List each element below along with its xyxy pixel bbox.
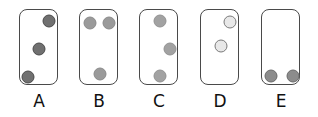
option-label: B bbox=[79, 91, 119, 111]
circle-dot bbox=[84, 17, 97, 30]
option-label: A bbox=[19, 91, 59, 111]
circle-dot bbox=[94, 68, 107, 81]
circle-dot bbox=[287, 70, 300, 83]
option-card bbox=[19, 9, 58, 85]
option-card bbox=[139, 9, 178, 85]
circle-dot bbox=[215, 40, 228, 53]
circle-dot bbox=[33, 43, 46, 56]
option-card bbox=[79, 9, 118, 85]
circle-dot bbox=[43, 15, 56, 28]
option-label: D bbox=[200, 91, 240, 111]
circle-dot bbox=[103, 17, 116, 30]
option-card bbox=[200, 9, 239, 85]
circle-dot bbox=[154, 70, 167, 83]
circle-dot bbox=[22, 71, 35, 84]
option-card bbox=[261, 9, 300, 85]
circle-dot bbox=[164, 43, 177, 56]
circle-dot bbox=[224, 16, 237, 29]
option-label: E bbox=[261, 91, 301, 111]
circle-dot bbox=[265, 70, 278, 83]
circle-dot bbox=[154, 15, 167, 28]
option-label: C bbox=[139, 91, 179, 111]
